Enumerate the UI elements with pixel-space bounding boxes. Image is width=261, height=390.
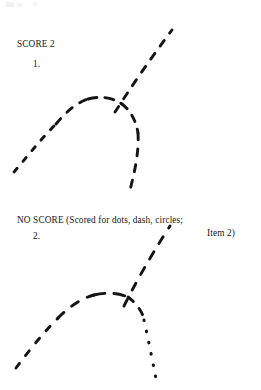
- stroke-arch-apex: [88, 97, 122, 104]
- scoring-examples-page: SCORE 2 1. NO SCORE (Scored for dots, da…: [0, 0, 261, 390]
- specimen-score-2: SCORE 2 1.: [0, 0, 261, 196]
- stroke-arch-right-fall: [128, 297, 144, 318]
- stroke-lower-left-tail: [16, 318, 58, 368]
- stroke-right-descending-tail-dots: [144, 320, 157, 384]
- stroke-right-descending-tail: [130, 133, 138, 190]
- figure-2-drawing: [0, 196, 261, 390]
- specimen-no-score: NO SCORE (Scored for dots, dash, circles…: [0, 196, 261, 390]
- stroke-arch-apex: [94, 293, 128, 297]
- stroke-arch-left-rise: [56, 99, 88, 124]
- figure-1-drawing: [0, 0, 261, 196]
- stroke-upper-diagonal: [115, 30, 172, 112]
- stroke-upper-diagonal: [124, 226, 170, 306]
- stroke-lower-left-tail: [14, 124, 56, 172]
- stroke-arch-left-rise: [58, 295, 94, 318]
- stroke-arch-right-fall: [122, 104, 138, 133]
